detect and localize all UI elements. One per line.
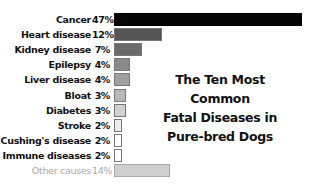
category-label: Other causes [32,163,91,178]
bar [114,164,170,177]
value-label: 3% [92,103,110,118]
category-label: Heart disease [21,27,91,42]
chart-title: The Ten Most Common Fatal Diseases in Pu… [150,70,290,146]
category-label: Epilepsy [49,57,92,72]
category-label: Kidney disease [14,42,91,57]
value-label: 14% [92,163,110,178]
category-label: Diabetes [46,103,91,118]
bar [114,134,122,147]
category-label: Cancer [56,12,91,27]
bar [114,73,130,86]
value-label: 47% [92,12,110,27]
category-label: Liver disease [24,72,91,87]
bar [114,43,142,56]
chart-row: Kidney disease7% [0,42,315,57]
value-label: 2% [92,118,110,133]
bar [114,58,130,71]
chart-row: Other causes14% [0,163,315,178]
value-label: 4% [92,57,110,72]
bar [114,28,162,41]
chart-title-line-1: The Ten Most Common [150,70,290,108]
category-label: Stroke [58,118,91,133]
category-label: Immune diseases [3,148,91,163]
chart-title-line-2: Fatal Diseases in [150,108,290,127]
chart-row: Immune diseases2% [0,148,315,163]
category-label: Cushing's disease [1,133,91,148]
value-label: 2% [92,148,110,163]
chart-row: Cancer47% [0,12,315,27]
bar [114,119,122,132]
category-label: Bloat [65,88,91,103]
bar [114,104,126,117]
bar [114,89,126,102]
bar [114,13,302,26]
value-label: 7% [92,42,110,57]
value-label: 4% [92,72,110,87]
value-label: 2% [92,133,110,148]
chart-row: Heart disease12% [0,27,315,42]
chart-title-line-3: Pure-bred Dogs [150,127,290,146]
value-label: 12% [92,27,110,42]
bar [114,149,122,162]
value-label: 3% [92,88,110,103]
